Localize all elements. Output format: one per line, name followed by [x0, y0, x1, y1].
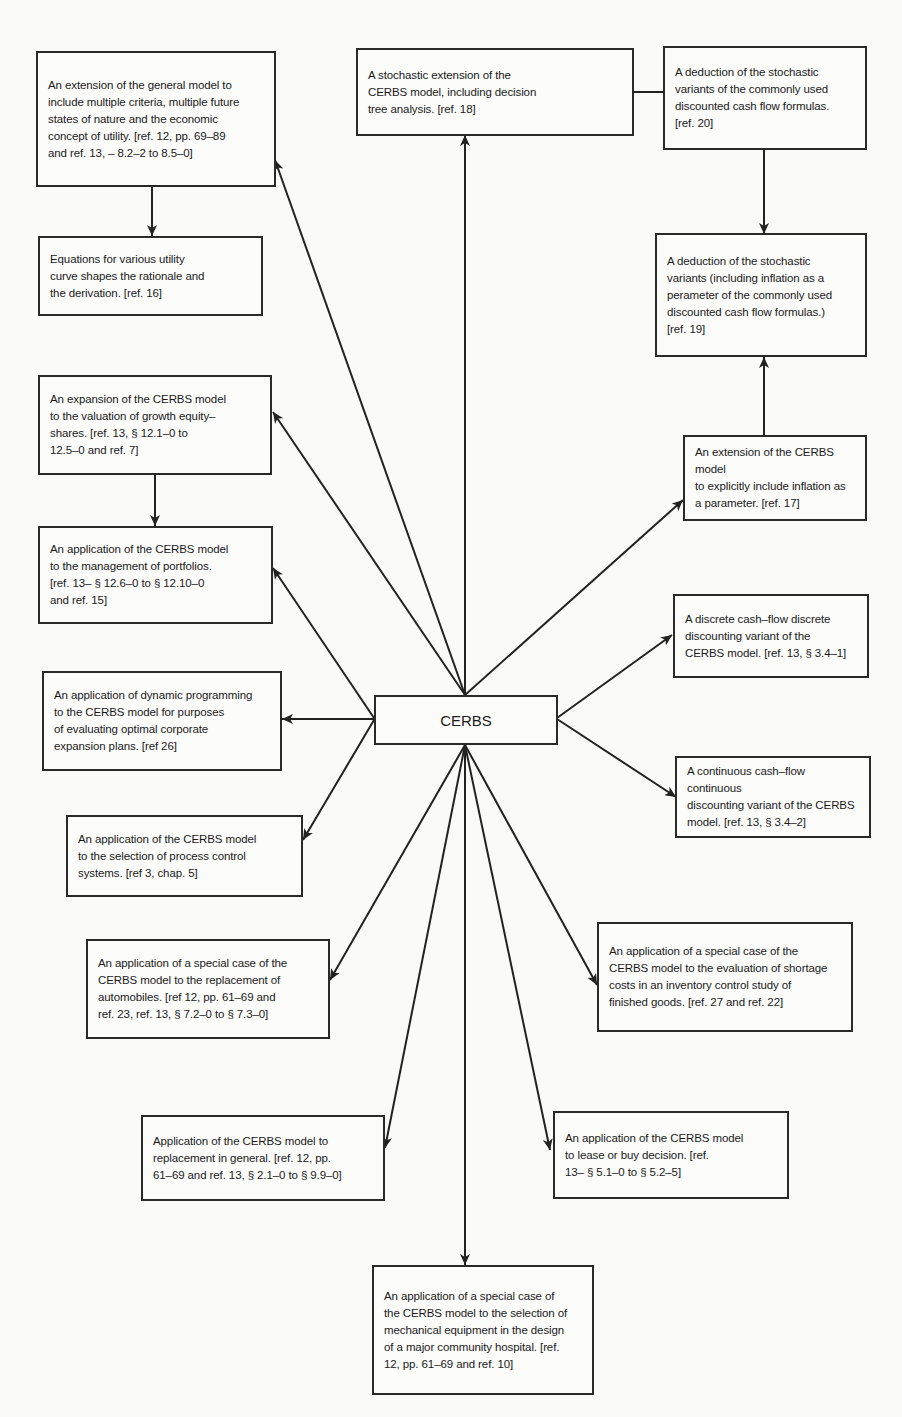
node-text: An application of the CERBS model to the… — [78, 831, 256, 882]
node-inventory-shortage: An application of a special case of the … — [597, 922, 853, 1032]
node-dynamic-programming: An application of dynamic programming to… — [42, 671, 282, 771]
node-replacement-general: Application of the CERBS model to replac… — [141, 1115, 385, 1201]
node-text: An application of a special case of the … — [98, 955, 287, 1023]
node-process-control: An application of the CERBS model to the… — [66, 815, 303, 897]
node-automobiles: An application of a special case of the … — [86, 939, 330, 1039]
node-multi-criteria: An extension of the general model to inc… — [36, 51, 276, 187]
node-text: An application of a special case of the … — [384, 1288, 567, 1373]
edge-to-inventory-shortage — [465, 745, 597, 985]
edge-to-lease-or-buy — [465, 745, 550, 1150]
edge-to-growth-equity — [273, 412, 465, 695]
node-text: An application of the CERBS model to the… — [50, 541, 228, 609]
edge-to-portfolios — [273, 568, 374, 718]
edge-to-inflation-extension — [465, 500, 683, 695]
node-text: A discrete cash–flow discrete discountin… — [685, 611, 846, 662]
node-discrete-variant: A discrete cash–flow discrete discountin… — [673, 594, 869, 678]
center-label: CERBS — [440, 712, 492, 729]
node-continuous-variant: A continuous cash–flow continuous discou… — [675, 756, 871, 838]
node-text: An application of the CERBS model to lea… — [565, 1130, 743, 1181]
node-hospital-equipment: An application of a special case of the … — [372, 1265, 594, 1395]
node-text: A deduction of the stochastic variants o… — [675, 64, 829, 132]
node-text: Equations for various utility curve shap… — [50, 251, 204, 302]
node-text: A stochastic extension of the CERBS mode… — [368, 67, 536, 118]
edge-to-automobiles — [330, 745, 465, 980]
node-text: An application of a special case of the … — [609, 943, 827, 1011]
node-center-cerbs: CERBS — [374, 695, 558, 745]
node-text: A continuous cash–flow continuous discou… — [687, 763, 859, 831]
node-text: An expansion of the CERBS model to the v… — [50, 391, 226, 459]
node-text: An extension of the CERBS model to expli… — [695, 444, 855, 512]
node-stochastic-deduction: A deduction of the stochastic variants o… — [663, 46, 867, 150]
node-inflation-extension: An extension of the CERBS model to expli… — [683, 435, 867, 521]
node-stochastic-inflation: A deduction of the stochastic variants (… — [655, 233, 867, 357]
edge-to-process-control — [303, 720, 374, 840]
node-text: Application of the CERBS model to replac… — [153, 1133, 342, 1184]
node-stochastic-extension: A stochastic extension of the CERBS mode… — [356, 48, 634, 136]
edge-to-replacement-general — [385, 745, 465, 1148]
edge-to-continuous-variant — [557, 719, 676, 797]
edge-to-discrete-variant — [557, 635, 672, 718]
node-portfolios: An application of the CERBS model to the… — [38, 526, 273, 624]
node-text: An extension of the general model to inc… — [48, 77, 239, 162]
node-lease-or-buy: An application of the CERBS model to lea… — [553, 1111, 789, 1199]
node-text: An application of dynamic programming to… — [54, 687, 252, 755]
node-growth-equity: An expansion of the CERBS model to the v… — [38, 375, 272, 475]
node-utility-curves: Equations for various utility curve shap… — [38, 236, 263, 316]
node-text: A deduction of the stochastic variants (… — [667, 253, 832, 338]
